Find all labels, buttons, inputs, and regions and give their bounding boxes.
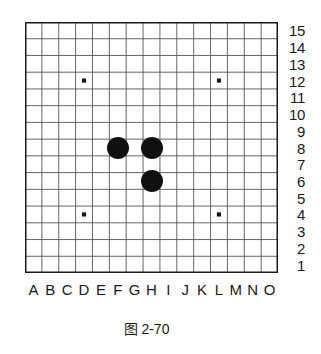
row-axis-labels: 151413121110987654321: [283, 22, 317, 273]
column-axis-labels: ABCDEFGHIJKLMNO: [25, 282, 278, 302]
column-label-A: A: [28, 282, 38, 297]
row-label-8: 8: [297, 140, 305, 155]
column-label-O: O: [264, 282, 276, 297]
row-label-3: 3: [297, 224, 305, 239]
column-label-H: H: [146, 282, 157, 297]
column-label-E: E: [96, 282, 106, 297]
column-label-K: K: [197, 282, 207, 297]
row-label-4: 4: [297, 207, 305, 222]
row-label-6: 6: [297, 173, 305, 188]
row-label-10: 10: [289, 107, 305, 122]
figure-caption: 图 2-70: [0, 322, 293, 336]
column-label-G: G: [129, 282, 141, 297]
column-label-C: C: [62, 282, 73, 297]
row-label-11: 11: [290, 90, 305, 105]
column-label-M: M: [230, 282, 243, 297]
column-label-B: B: [45, 282, 55, 297]
column-label-N: N: [247, 282, 258, 297]
column-label-J: J: [181, 282, 189, 297]
go-diagram-figure: 151413121110987654321 ABCDEFGHIJKLMNO 图 …: [0, 0, 321, 354]
stone-black-H6[interactable]: [141, 170, 163, 192]
column-label-I: I: [166, 282, 170, 297]
row-label-13: 13: [289, 56, 305, 71]
row-label-5: 5: [297, 190, 305, 205]
row-label-9: 9: [297, 123, 305, 138]
row-label-12: 12: [289, 73, 305, 88]
go-board[interactable]: [25, 22, 278, 273]
row-label-2: 2: [297, 240, 305, 255]
column-label-L: L: [215, 282, 223, 297]
column-label-F: F: [113, 282, 122, 297]
column-label-D: D: [79, 282, 90, 297]
row-label-15: 15: [289, 23, 305, 38]
row-label-14: 14: [289, 40, 305, 55]
row-label-1: 1: [297, 257, 305, 272]
stone-black-F8[interactable]: [107, 137, 129, 159]
row-label-7: 7: [297, 157, 305, 172]
stone-black-H8[interactable]: [141, 137, 163, 159]
